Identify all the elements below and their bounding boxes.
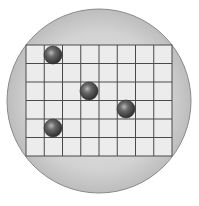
sphere-2: [80, 82, 98, 100]
sphere-4: [44, 119, 62, 137]
sphere-1: [44, 46, 62, 64]
sphere-3: [117, 100, 135, 118]
petri-dish-diagram: [0, 0, 199, 206]
